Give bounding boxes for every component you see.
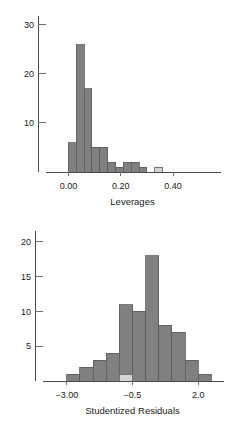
histogram-bar-highlight-segment <box>119 374 132 381</box>
x-axis-title: Studentized Residuals <box>85 405 180 416</box>
x-axis-tick-label: −3.00 <box>55 390 78 400</box>
histogram-bar <box>80 367 93 381</box>
histogram-bar <box>68 143 76 172</box>
histogram-bar <box>159 325 172 381</box>
histogram-bar <box>92 147 100 172</box>
histogram-bar <box>108 162 116 172</box>
histogram-bar <box>172 332 185 381</box>
y-axis-tick-label: 10 <box>21 307 31 317</box>
histogram-bar <box>133 311 146 381</box>
histogram-bar <box>76 45 84 172</box>
leverages-histogram-plot: 0.000.200.40102030Leverages <box>0 0 241 215</box>
y-axis-tick-label: 20 <box>21 237 31 247</box>
histogram-bar <box>84 89 92 172</box>
x-axis-tick-label: −0.5 <box>124 390 142 400</box>
histogram-bar <box>93 360 106 381</box>
y-axis-tick-label: 5 <box>26 341 31 351</box>
studentized-residuals-histogram-plot: −3.00−0.52.05101520Studentized Residuals <box>0 215 241 429</box>
histogram-bar <box>119 305 132 381</box>
x-axis-tick-label: 0.40 <box>164 181 182 191</box>
histogram-bar <box>139 167 147 172</box>
histogram-bar <box>155 167 163 172</box>
histogram-bar <box>67 374 80 381</box>
figure-two-histograms: 0.000.200.40102030Leverages −3.00−0.52.0… <box>0 0 241 429</box>
histogram-bar <box>106 353 119 381</box>
histogram-bar <box>185 360 198 381</box>
y-axis-tick-label: 20 <box>24 69 34 79</box>
y-axis-tick-label: 10 <box>24 118 34 128</box>
y-axis-tick-label: 15 <box>21 272 31 282</box>
histogram-bar <box>116 167 124 172</box>
x-axis-title: Leverages <box>110 196 155 207</box>
x-axis-tick-label: 2.0 <box>192 390 205 400</box>
histogram-bar <box>198 374 211 381</box>
chart-panel-studentized-residuals: −3.00−0.52.05101520Studentized Residuals <box>0 215 241 429</box>
x-axis-tick-label: 0.00 <box>60 181 78 191</box>
chart-panel-leverages: 0.000.200.40102030Leverages <box>0 0 241 215</box>
histogram-bar <box>100 147 108 172</box>
histogram-bar <box>123 162 131 172</box>
y-axis-tick-label: 30 <box>24 20 34 30</box>
histogram-bar <box>131 162 139 172</box>
x-axis-tick-label: 0.20 <box>112 181 130 191</box>
histogram-bar <box>146 256 159 381</box>
